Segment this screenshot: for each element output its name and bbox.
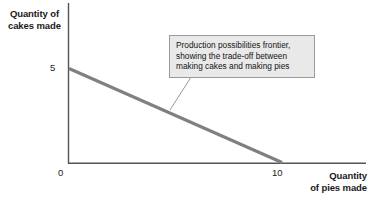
x-axis-title-line1: Quantity: [329, 170, 367, 181]
origin-tick-label: 0: [58, 167, 63, 178]
ppf-chart-figure: Quantity of cakes made Quantity of pies …: [0, 0, 373, 205]
annotation-line-3: making cakes and making pies: [176, 61, 309, 72]
x-axis-title: Quantity of pies made: [310, 170, 367, 193]
y-axis-title: Quantity of cakes made: [8, 8, 61, 31]
annotation-line-1: Production possibilities frontier,: [176, 40, 309, 51]
y-axis-title-line1: Quantity of: [10, 8, 59, 19]
ppf-line: [69, 69, 282, 163]
ppf-annotation-box: Production possibilities frontier, showi…: [169, 35, 315, 78]
x-axis-title-line2: of pies made: [310, 182, 367, 193]
y-tick-label-5: 5: [50, 62, 55, 73]
annotation-line-2: showing the trade-off between: [176, 51, 309, 62]
x-tick-label-10: 10: [272, 167, 283, 178]
y-axis-title-line2: cakes made: [8, 20, 61, 31]
